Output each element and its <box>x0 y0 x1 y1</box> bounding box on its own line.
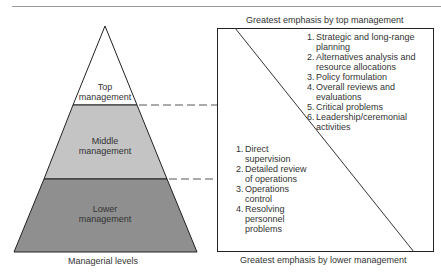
pyramid-caption: Managerial levels <box>68 256 138 266</box>
top-management-list: 1.Strategic and long-range planning 2.Al… <box>307 32 425 132</box>
item-number: 1. <box>236 144 245 154</box>
item-text: Critical problems <box>316 102 383 112</box>
item-number: 4. <box>236 204 245 214</box>
list-item: 2.Alternatives analysis and resource all… <box>307 52 425 72</box>
item-text: Alternatives analysis and resource alloc… <box>316 52 416 72</box>
item-number: 4. <box>307 82 316 92</box>
label-line: management <box>70 214 140 224</box>
lower-management-list: 1.Direct supervision 2.Detailed review o… <box>236 144 316 234</box>
item-number: 5. <box>307 102 316 112</box>
list-item: 6.Leadership/ceremonial activities <box>307 112 425 132</box>
item-text: Detailed review of operations <box>245 164 307 184</box>
item-text: Direct supervision <box>245 144 291 164</box>
pyramid-label-lower: Lower management <box>70 204 140 224</box>
label-line: Top <box>70 82 140 92</box>
list-item: 3.Operations control <box>236 184 316 204</box>
item-text: Leadership/ceremonial activities <box>316 112 407 132</box>
item-number: 2. <box>307 52 316 62</box>
item-number: 3. <box>307 72 316 82</box>
list-item: 1.Strategic and long-range planning <box>307 32 425 52</box>
list-item: 5.Critical problems <box>307 102 425 112</box>
item-text: Policy formulation <box>316 72 387 82</box>
bottom-emphasis-caption: Greatest emphasis by lower management <box>240 255 407 265</box>
list-item: 2.Detailed review of operations <box>236 164 316 184</box>
item-number: 2. <box>236 164 245 174</box>
item-number: 1. <box>307 32 316 42</box>
item-number: 6. <box>307 112 316 122</box>
pyramid-label-top: Top management <box>70 82 140 102</box>
top-emphasis-caption: Greatest emphasis by top management <box>246 15 404 25</box>
list-item: 4.Resolving personnel problems <box>236 204 316 234</box>
item-text: Operations control <box>245 184 289 204</box>
label-line: management <box>70 92 140 102</box>
label-line: management <box>70 146 140 156</box>
item-number: 3. <box>236 184 245 194</box>
list-item: 4.Overall reviews and evaluations <box>307 82 425 102</box>
item-text: Overall reviews and evaluations <box>316 82 395 102</box>
list-item: 3.Policy formulation <box>307 72 425 82</box>
item-text: Strategic and long-range planning <box>316 32 415 52</box>
label-line: Middle <box>70 136 140 146</box>
item-text: Resolving personnel problems <box>245 204 285 234</box>
list-item: 1.Direct supervision <box>236 144 316 164</box>
pyramid-label-middle: Middle management <box>70 136 140 156</box>
label-line: Lower <box>70 204 140 214</box>
